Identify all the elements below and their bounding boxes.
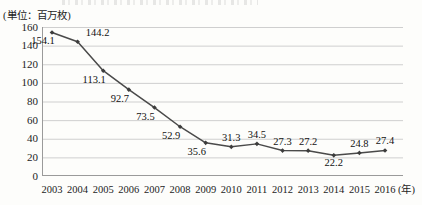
data-point-label: 73.5 xyxy=(136,112,154,123)
y-axis-tick-label: 120 xyxy=(22,59,39,70)
plot-svg xyxy=(42,27,403,176)
data-point-label: 92.7 xyxy=(111,94,129,105)
x-axis-tick-labels: 2003200420052006200720082009201020112012… xyxy=(0,185,422,201)
x-axis-tick-label: 2006 xyxy=(118,185,139,196)
y-axis-tick-label: 40 xyxy=(27,133,38,144)
y-axis-tick-label: 0 xyxy=(33,171,39,182)
y-axis-tick-label: 60 xyxy=(27,115,38,126)
data-point-label: 27.3 xyxy=(273,137,291,148)
x-axis-tick-label: 2013 xyxy=(298,185,319,196)
x-axis-unit-label: (年) xyxy=(398,185,415,196)
data-point-label: 34.5 xyxy=(248,130,266,141)
data-point-label: 35.6 xyxy=(188,147,206,158)
data-point-label: 52.9 xyxy=(162,131,180,142)
data-point-label: 144.2 xyxy=(86,28,110,39)
data-point-label: 22.2 xyxy=(325,158,343,169)
y-axis-tick-labels: 020406080100120140160 xyxy=(0,0,38,205)
data-point-label: 113.1 xyxy=(83,75,106,86)
x-axis-tick-label: 2003 xyxy=(42,185,63,196)
data-point-label: 31.3 xyxy=(222,133,240,144)
x-axis-tick-label: 2010 xyxy=(221,185,242,196)
y-axis-tick-label: 80 xyxy=(27,96,38,107)
x-axis-tick-label: 2004 xyxy=(67,185,88,196)
x-axis-tick-label: 2016 xyxy=(375,185,396,196)
data-point-label: 27.4 xyxy=(376,136,394,147)
x-axis-tick-label: 2015 xyxy=(349,185,370,196)
data-point-label: 154.1 xyxy=(31,36,55,47)
y-axis-tick-label: 100 xyxy=(22,77,39,88)
x-axis-tick-label: 2005 xyxy=(93,185,114,196)
data-point-label: 27.2 xyxy=(299,137,317,148)
line-chart: (単位：百万枚) 020406080100120140160 154.1144.… xyxy=(0,0,422,205)
x-axis-tick-label: 2008 xyxy=(170,185,191,196)
x-axis-tick-label: 2012 xyxy=(272,185,293,196)
y-axis-tick-label: 160 xyxy=(22,22,39,33)
x-axis-tick-label: 2007 xyxy=(144,185,165,196)
data-point-label: 24.8 xyxy=(350,139,368,150)
x-axis-tick-label: 2014 xyxy=(323,185,344,196)
y-axis-tick-label: 20 xyxy=(27,152,38,163)
x-axis-tick-label: 2011 xyxy=(247,185,268,196)
cropped-caption-artifact xyxy=(62,0,258,5)
plot-area xyxy=(42,27,403,176)
x-axis-tick-label: 2009 xyxy=(195,185,216,196)
